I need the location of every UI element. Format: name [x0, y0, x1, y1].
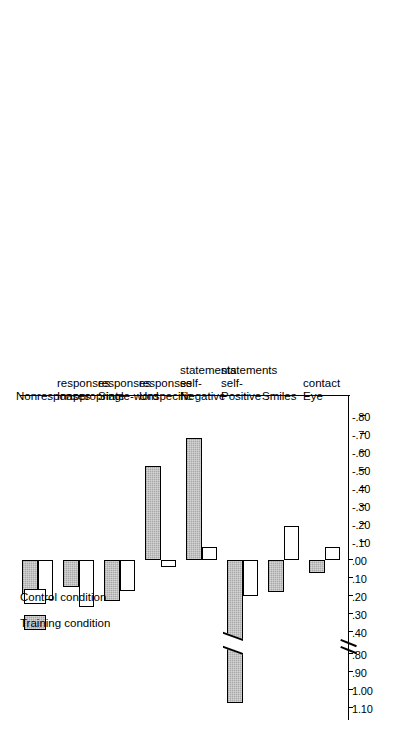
axis-tick-label: .30 [352, 610, 367, 622]
category-label: responses [57, 377, 110, 390]
axis-tick-label: .40 [352, 628, 367, 640]
category-label: Eye [303, 390, 323, 403]
category-label: Smiles [262, 390, 297, 403]
bar-training [145, 466, 161, 560]
bar-training [63, 560, 79, 587]
axis-tick-label: 1.00 [352, 686, 373, 698]
axis-tick-label: -.30 [352, 502, 370, 514]
legend-label-control: Control condition [20, 591, 106, 603]
legend-label-training: Training condition [20, 617, 110, 629]
axis-tick-label: -.40 [352, 484, 370, 496]
bar-control [284, 526, 300, 560]
category-label: Nonresponses [16, 390, 90, 403]
bar-training [309, 560, 325, 573]
axis-tick-label: -.10 [352, 538, 370, 550]
bar-training [268, 560, 284, 592]
axis-tick-label: -.70 [352, 430, 370, 442]
category-label: self- [221, 377, 243, 390]
axis-tick-label: .80 [352, 650, 367, 662]
bar-control [202, 547, 218, 560]
axis-tick-label: .10 [352, 574, 367, 586]
axis-tick-label: 1.10 [352, 704, 373, 716]
bar-control [243, 560, 259, 596]
bar-control [120, 560, 136, 591]
axis-tick-label: .20 [352, 592, 367, 604]
bar-training [186, 438, 202, 560]
bar-training [227, 560, 243, 703]
axis-tick-label: .00 [352, 556, 367, 568]
axis-tick-label: -.50 [352, 466, 370, 478]
bar-control [161, 560, 177, 567]
category-label: statements [180, 364, 236, 377]
bar-training [104, 560, 120, 601]
chart-plot-area: 1.101.00.90.80.40.30.20.10.00-.10-.20-.3… [0, 0, 399, 750]
category-label: contact [303, 377, 340, 390]
axis-tick-label: .90 [352, 668, 367, 680]
axis-tick-label: -.80 [352, 412, 370, 424]
rotated-figure: 1.101.00.90.80.40.30.20.10.00-.10-.20-.3… [0, 0, 399, 750]
axis-tick-label: -.60 [352, 448, 370, 460]
axis-tick-label: -.20 [352, 520, 370, 532]
category-label: Positive [221, 390, 261, 403]
bar-control [325, 547, 341, 560]
